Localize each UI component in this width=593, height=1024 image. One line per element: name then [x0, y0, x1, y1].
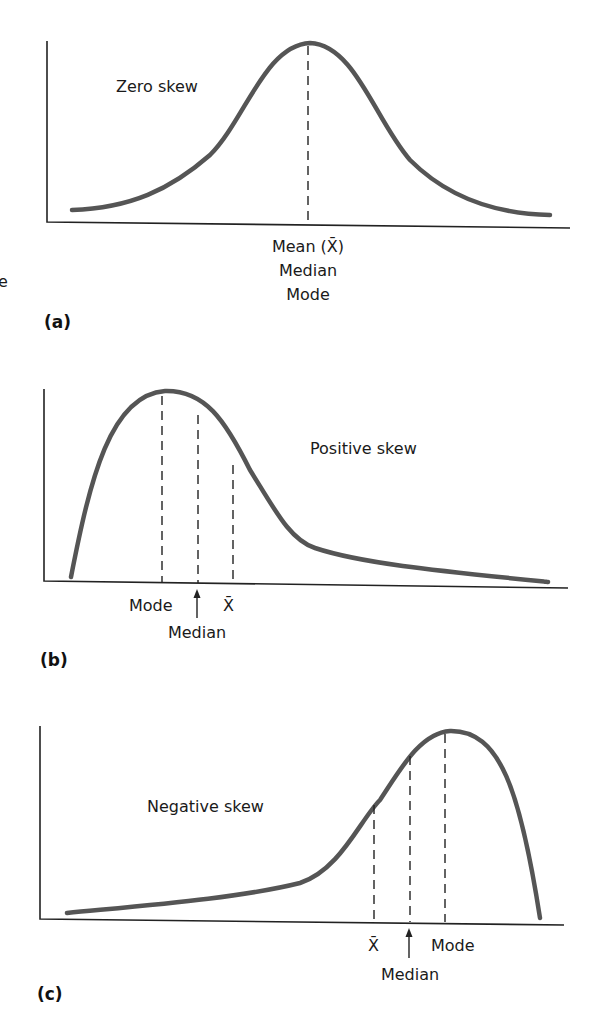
panel-b-median-arrow-icon	[194, 589, 201, 618]
panel-b-median-label: Median	[168, 623, 226, 642]
panel-b: Positive skew Mode X̄ Median (b)	[40, 389, 568, 670]
panel-a-curve	[72, 43, 550, 215]
panel-a-median-label: Median	[279, 261, 337, 280]
panel-b-title: Positive skew	[310, 439, 417, 458]
panel-c-mode-label: Mode	[431, 936, 475, 955]
panel-b-mode-label: Mode	[129, 596, 173, 615]
panel-c-median-label: Median	[381, 965, 439, 984]
panel-c-axes	[40, 726, 564, 925]
panel-c: Negative skew X̄ Mode Median (c)	[37, 726, 564, 1004]
panel-c-mean-label: X̄	[368, 936, 379, 955]
panel-a-title: Zero skew	[116, 77, 198, 96]
panel-b-curve	[71, 391, 548, 582]
panel-a: Zero skew Mean (X̄) Median Mode (a)	[44, 41, 570, 332]
panel-a-mode-label: Mode	[286, 285, 330, 304]
skewness-figure: e Zero skew Mean (X̄) Median Mode (a) Po…	[0, 0, 593, 1024]
panel-c-label: (c)	[37, 984, 63, 1004]
panel-c-median-arrow-icon	[406, 928, 413, 958]
panel-a-label: (a)	[44, 312, 71, 332]
panel-c-title: Negative skew	[147, 797, 264, 816]
panel-b-mean-label: X̄	[223, 596, 234, 615]
panel-b-label: (b)	[40, 650, 68, 670]
panel-c-curve	[67, 731, 540, 918]
panel-a-mean-label: Mean (X̄)	[272, 237, 344, 256]
margin-fragment: e	[0, 272, 8, 291]
